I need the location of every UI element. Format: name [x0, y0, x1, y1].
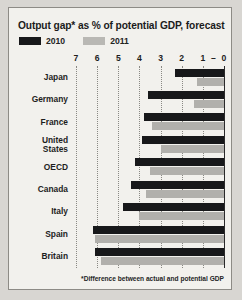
bar-italy-2011 — [139, 212, 224, 220]
bar-row — [68, 201, 225, 223]
value-tick-0: 0 — [222, 53, 227, 63]
value-tick-2: 2 — [179, 53, 184, 63]
value-tick-6: 6 — [95, 53, 100, 63]
category-label-canada: Canada — [14, 185, 68, 194]
chart-title: Output gap* as % of potential GDP, forec… — [18, 20, 230, 31]
chart-canvas: Output gap* as % of potential GDP, forec… — [9, 8, 231, 289]
category-label-italy: Italy — [14, 207, 68, 216]
value-tick-5: 5 — [116, 53, 121, 63]
bar-japan-2010 — [175, 69, 224, 77]
value-tick-7: 7 — [74, 53, 79, 63]
bar-japan-2011 — [197, 78, 224, 86]
bar-france-2010 — [144, 113, 224, 121]
chart-footnote: *Difference between actual and potential… — [9, 275, 224, 282]
bar-france-2011 — [152, 122, 224, 130]
category-label-japan: Japan — [14, 73, 68, 82]
legend-swatch-2010 — [19, 37, 41, 45]
bar-canada-2010 — [131, 181, 224, 189]
category-axis-labels: JapanGermanyFranceUnitedStatesOECDCanada… — [14, 66, 68, 268]
bar-canada-2011 — [146, 190, 224, 198]
bar-row — [68, 66, 225, 88]
bar-germany-2011 — [194, 100, 224, 108]
bar-united-states-2010 — [142, 136, 224, 144]
value-tick-1: 1 — [200, 53, 205, 63]
value-axis-ticks: 7654321–0 — [68, 53, 225, 66]
bar-rows — [68, 66, 225, 268]
bar-britain-2010 — [95, 248, 224, 256]
bar-italy-2010 — [123, 203, 224, 211]
bar-row — [68, 223, 225, 245]
chart-legend: 2010 2011 — [19, 36, 147, 46]
bar-row — [68, 133, 225, 155]
value-tick-–: – — [211, 53, 216, 63]
bar-row — [68, 246, 225, 268]
bar-row — [68, 156, 225, 178]
legend-swatch-2011 — [83, 37, 105, 45]
chart-frame: Output gap* as % of potential GDP, forec… — [8, 7, 232, 290]
bar-oecd-2010 — [135, 158, 224, 166]
category-label-united-states: UnitedStates — [14, 136, 68, 154]
bar-row — [68, 178, 225, 200]
bar-britain-2011 — [101, 257, 224, 265]
legend-label-2010: 2010 — [46, 36, 65, 46]
category-label-germany: Germany — [14, 95, 68, 104]
bar-spain-2011 — [95, 235, 224, 243]
category-label-spain: Spain — [14, 230, 68, 239]
value-tick-3: 3 — [158, 53, 163, 63]
value-tick-4: 4 — [137, 53, 142, 63]
bar-row — [68, 111, 225, 133]
legend-label-2011: 2011 — [110, 36, 129, 46]
plot-area: 7654321–0 — [68, 53, 225, 268]
bar-oecd-2011 — [150, 167, 224, 175]
category-label-britain: Britain — [14, 252, 68, 261]
bar-germany-2010 — [148, 91, 224, 99]
category-label-france: France — [14, 118, 68, 127]
legend-item-2011: 2011 — [83, 36, 129, 46]
bar-spain-2010 — [93, 226, 224, 234]
bar-united-states-2011 — [161, 145, 224, 153]
category-label-oecd: OECD — [14, 163, 68, 172]
legend-item-2010: 2010 — [19, 36, 65, 46]
bar-row — [68, 88, 225, 110]
